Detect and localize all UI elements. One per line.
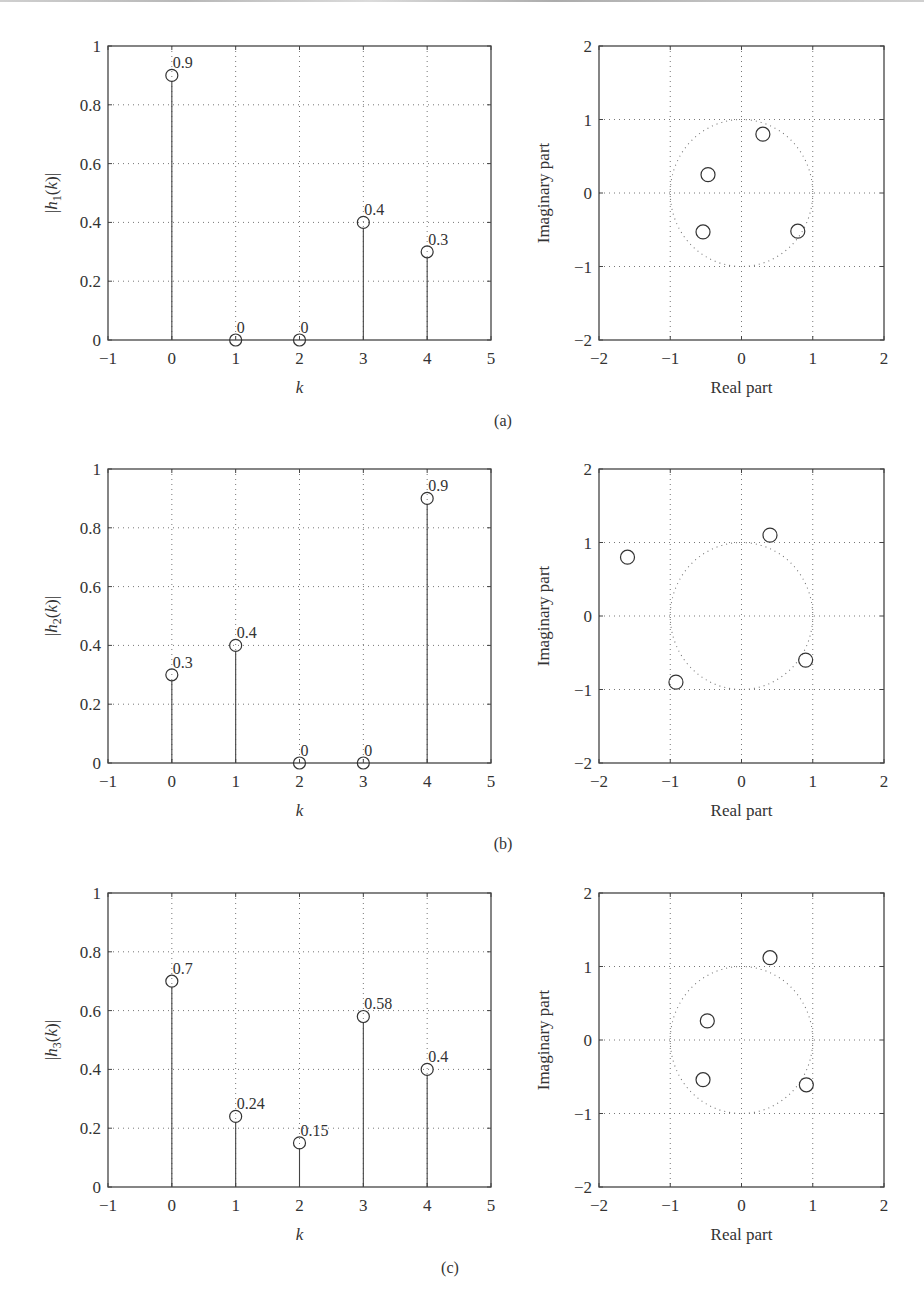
x-axis-label: k	[296, 378, 304, 397]
x-tick-label: −1	[99, 349, 117, 368]
caption-a: (a)	[494, 412, 512, 430]
pole-zero-plot-b: −2−1012−2−1012Real partImaginary part	[534, 460, 888, 820]
zero-marker	[799, 1078, 813, 1092]
y-tick-label: 0	[584, 184, 593, 203]
zero-marker	[799, 653, 813, 667]
y-tick-label: −2	[574, 331, 592, 350]
y-axis-label: |h1(k)|	[42, 173, 64, 213]
y-tick-label: 0.8	[80, 519, 101, 538]
axes-box	[108, 469, 491, 763]
x-tick-label: 2	[295, 772, 304, 791]
x-tick-label: 0	[737, 772, 746, 791]
x-tick-label: −2	[590, 349, 608, 368]
x-axis-label: k	[296, 801, 304, 820]
zero-marker	[621, 550, 635, 564]
y-tick-label: 0	[93, 1178, 102, 1197]
x-tick-label: 0	[737, 349, 746, 368]
x-tick-label: 5	[487, 1196, 496, 1215]
x-tick-label: 1	[231, 349, 240, 368]
value-label: 0.9	[173, 54, 193, 71]
zero-marker	[756, 127, 770, 141]
x-tick-label: 1	[809, 349, 818, 368]
x-tick-label: 0	[168, 1196, 177, 1215]
y-tick-label: 0.4	[80, 213, 102, 232]
x-tick-label: 1	[809, 1196, 818, 1215]
y-tick-label: −1	[574, 681, 592, 700]
x-tick-label: 5	[487, 772, 496, 791]
value-label: 0	[237, 319, 245, 336]
y-tick-label: 1	[584, 111, 593, 130]
zero-marker	[696, 1073, 710, 1087]
value-label: 0	[301, 742, 309, 759]
x-tick-label: 3	[359, 772, 368, 791]
axes-box	[599, 46, 884, 340]
y-tick-label: 0.2	[80, 1119, 101, 1138]
x-tick-label: −1	[661, 772, 679, 791]
zero-marker	[791, 224, 805, 238]
y-tick-label: −2	[574, 754, 592, 773]
y-tick-label: 0	[93, 754, 102, 773]
x-tick-label: −1	[661, 349, 679, 368]
x-tick-label: 0	[168, 349, 177, 368]
x-tick-label: 0	[737, 1196, 746, 1215]
zero-marker	[669, 675, 683, 689]
x-tick-label: 1	[231, 1196, 240, 1215]
x-tick-label: 1	[809, 772, 818, 791]
figure-canvas: −101234500.20.40.60.810.9000.40.3k|h1(k)…	[0, 0, 924, 1302]
value-label: 0.7	[173, 960, 193, 977]
x-tick-label: 1	[231, 772, 240, 791]
x-tick-label: −1	[99, 1196, 117, 1215]
stem-plot-c: −101234500.20.40.60.810.70.240.150.580.4…	[42, 884, 495, 1244]
value-label: 0.3	[173, 654, 193, 671]
y-axis-label: |h2(k)|	[42, 596, 64, 636]
y-tick-label: 0.4	[80, 1060, 102, 1079]
axes-box	[108, 893, 491, 1187]
x-axis-label: Real part	[711, 378, 773, 397]
y-tick-label: 0	[584, 1031, 593, 1050]
x-tick-label: 3	[359, 349, 368, 368]
zero-marker	[696, 225, 710, 239]
value-label: 0.4	[428, 1048, 448, 1065]
y-tick-label: 2	[584, 37, 593, 56]
value-label: 0	[364, 742, 372, 759]
y-tick-label: −2	[574, 1178, 592, 1197]
y-tick-label: 0.6	[80, 578, 101, 597]
y-axis-label: Imaginary part	[534, 565, 553, 666]
y-tick-label: 1	[584, 534, 593, 553]
axes-box	[599, 469, 884, 763]
x-tick-label: 2	[295, 349, 304, 368]
x-tick-label: −1	[661, 1196, 679, 1215]
x-axis-label: Real part	[711, 1225, 773, 1244]
y-tick-label: 0.8	[80, 943, 101, 962]
value-label: 0.58	[364, 995, 392, 1012]
x-tick-label: −2	[590, 1196, 608, 1215]
y-tick-label: 1	[584, 958, 593, 977]
y-tick-label: 0.6	[80, 1002, 101, 1021]
x-tick-label: 0	[168, 772, 177, 791]
x-tick-label: 4	[423, 1196, 432, 1215]
x-tick-label: 3	[359, 1196, 368, 1215]
value-label: 0.3	[428, 231, 448, 248]
zero-marker	[763, 951, 777, 965]
x-tick-label: 5	[487, 349, 496, 368]
x-tick-label: 4	[423, 772, 432, 791]
pole-zero-plot-c: −2−1012−2−1012Real partImaginary part	[534, 884, 888, 1244]
y-axis-label: Imaginary part	[534, 989, 553, 1090]
zero-marker	[701, 168, 715, 182]
x-tick-label: 2	[880, 1196, 889, 1215]
y-axis-label: |h3(k)|	[42, 1020, 64, 1060]
value-label: 0	[301, 319, 309, 336]
x-axis-label: Real part	[711, 801, 773, 820]
y-tick-label: 0.8	[80, 96, 101, 115]
x-tick-label: 2	[295, 1196, 304, 1215]
value-label: 0.15	[301, 1122, 329, 1139]
pole-zero-plot-a: −2−1012−2−1012Real partImaginary part	[534, 37, 888, 397]
y-tick-label: 2	[584, 884, 593, 903]
value-label: 0.4	[237, 624, 257, 641]
y-tick-label: 0.4	[80, 636, 102, 655]
axes-box	[599, 893, 884, 1187]
y-tick-label: 1	[93, 884, 102, 903]
x-tick-label: −2	[590, 772, 608, 791]
y-tick-label: 0.2	[80, 272, 101, 291]
zero-marker	[700, 1014, 714, 1028]
